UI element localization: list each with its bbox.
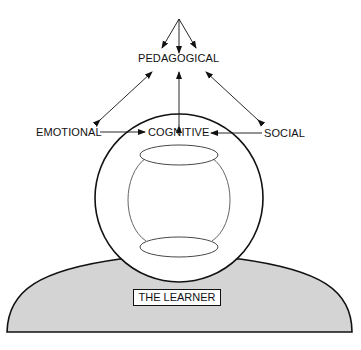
pedagogical-label: PEDAGOGICAL (138, 52, 219, 64)
the-learner-label: THE LEARNER (133, 289, 221, 306)
pedagogical-input-arrows (162, 19, 196, 53)
social-label: SOCIAL (264, 127, 305, 139)
double-arrow-pedagogical-social (206, 72, 258, 120)
double-arrow-pedagogical-emotional (100, 72, 152, 120)
emotional-label: EMOTIONAL (36, 126, 102, 138)
cognitive-label: COGNITIVE (148, 126, 209, 138)
